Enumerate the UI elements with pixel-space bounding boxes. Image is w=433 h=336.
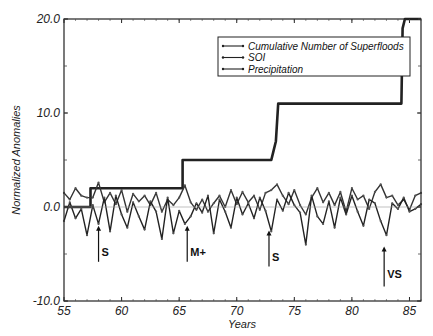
data-point [86, 234, 88, 236]
data-point [276, 183, 278, 185]
data-point [80, 195, 82, 197]
x-tick-label: 65 [172, 304, 186, 318]
data-point [126, 211, 128, 213]
data-point [132, 193, 134, 195]
data-point [120, 189, 122, 191]
data-point [259, 209, 261, 211]
annotation-label: S [272, 251, 279, 263]
data-point [414, 208, 416, 210]
data-point [201, 212, 203, 214]
data-point [374, 191, 376, 193]
data-point [172, 204, 174, 206]
data-point [397, 208, 399, 210]
data-point [86, 197, 88, 199]
data-point [408, 211, 410, 213]
x-tick-label: 60 [115, 304, 129, 318]
data-point [103, 197, 105, 199]
data-point [322, 201, 324, 203]
data-point [305, 213, 307, 215]
data-point [230, 189, 232, 191]
data-point [138, 200, 140, 202]
data-point [241, 191, 243, 193]
series-2 [63, 192, 422, 246]
legend-label: SOI [248, 52, 265, 63]
data-point [282, 210, 284, 212]
data-point [403, 197, 405, 199]
data-point [195, 209, 197, 211]
data-point [264, 192, 266, 194]
data-point [293, 204, 295, 206]
annotation-label: M+ [190, 246, 206, 258]
data-point [247, 202, 249, 204]
data-point [380, 183, 382, 185]
data-point [161, 211, 163, 213]
data-point [351, 187, 353, 189]
data-point [276, 198, 278, 200]
data-point [345, 213, 347, 215]
data-point [259, 197, 261, 199]
data-point [351, 195, 353, 197]
data-point [218, 195, 220, 197]
data-point [201, 198, 203, 200]
y-axis-title: Normalized Anomalies [10, 105, 22, 215]
data-point [74, 217, 76, 219]
data-point [322, 223, 324, 225]
annotation-label: VS [387, 268, 402, 280]
data-point [236, 197, 238, 199]
data-point [195, 202, 197, 204]
data-point [299, 212, 301, 214]
y-tick-label: 20.0 [36, 12, 61, 26]
data-point [362, 225, 364, 227]
data-point [224, 211, 226, 213]
data-point [380, 220, 382, 222]
data-point [305, 244, 307, 246]
data-point [253, 195, 255, 197]
data-point [374, 202, 376, 204]
data-point [69, 198, 71, 200]
data-point [74, 187, 76, 189]
data-point [391, 202, 393, 204]
data-point [172, 232, 174, 234]
data-point [287, 192, 289, 194]
data-point [282, 195, 284, 197]
annotation-s: S [266, 231, 279, 267]
data-point [316, 215, 318, 217]
data-point [207, 195, 209, 197]
data-point [161, 238, 163, 240]
annotation-mplus: M+ [185, 226, 206, 262]
x-tick-label: 85 [403, 304, 417, 318]
data-point [241, 213, 243, 215]
data-point [155, 211, 157, 213]
annotations: SM+SVS [96, 226, 402, 287]
data-point [357, 211, 359, 213]
data-point [362, 195, 364, 197]
data-point [115, 195, 117, 197]
data-point [253, 217, 255, 219]
data-point [293, 189, 295, 191]
data-point [144, 195, 146, 197]
data-point [92, 197, 94, 199]
data-point [178, 197, 180, 199]
data-point [69, 201, 71, 203]
data-point [334, 204, 336, 206]
data-point [213, 202, 215, 204]
data-point [339, 197, 341, 199]
legend: Cumulative Number of SuperfloodsSOIPreci… [218, 37, 410, 76]
data-point [264, 210, 266, 212]
data-point [385, 234, 387, 236]
data-point [270, 189, 272, 191]
data-point [270, 230, 272, 232]
data-point [184, 184, 186, 186]
data-point [132, 201, 134, 203]
data-point [328, 192, 330, 194]
x-axis-title: Years [228, 318, 257, 330]
x-tick-label: 80 [345, 304, 359, 318]
data-point [190, 215, 192, 217]
data-point [299, 204, 301, 206]
data-point [149, 200, 151, 202]
legend-item: Cumulative Number of Superfloods [222, 41, 404, 52]
data-point [385, 197, 387, 199]
annotation-s: S [96, 226, 109, 262]
x-tick-label: 75 [288, 304, 302, 318]
data-point [207, 211, 209, 213]
